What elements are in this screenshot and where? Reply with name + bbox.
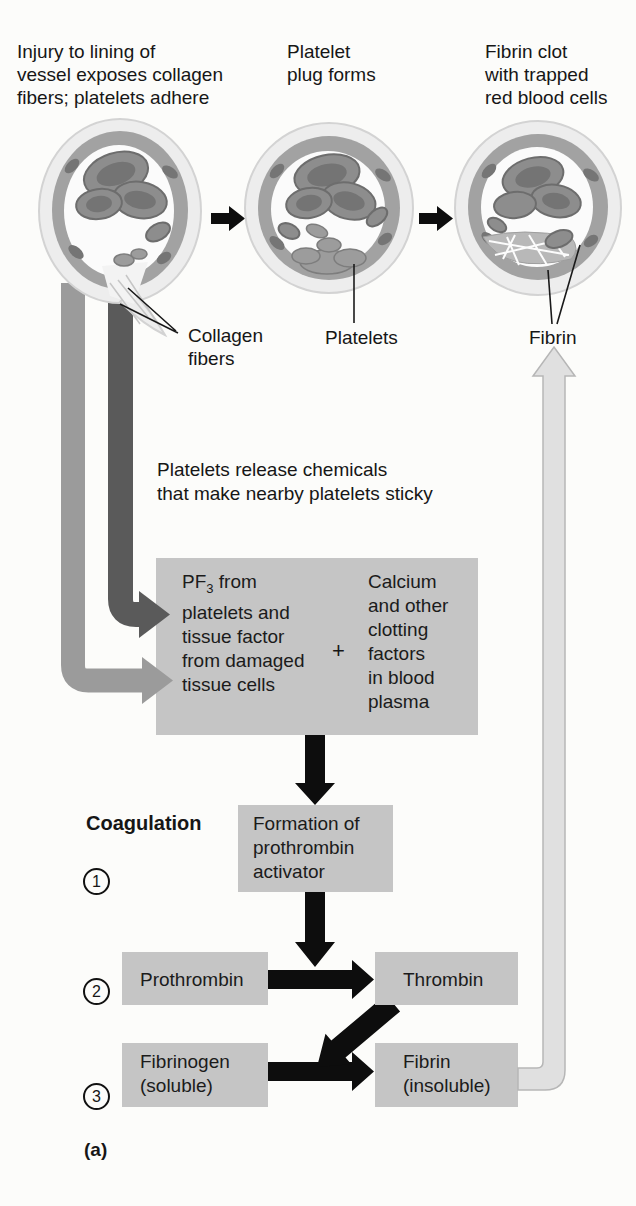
label-line: Injury to lining of bbox=[17, 40, 257, 63]
label-line: Platelet bbox=[287, 40, 417, 63]
label-line: plug forms bbox=[287, 63, 417, 86]
label-injury: Injury to lining of vessel exposes colla… bbox=[17, 40, 257, 109]
vessel-injury-illustration bbox=[36, 114, 206, 343]
box-line: Fibrin bbox=[403, 1050, 491, 1074]
callout-line: Collagen bbox=[188, 324, 263, 347]
pf3-line: PF3 from bbox=[182, 570, 317, 601]
mix-box-line: Calcium bbox=[368, 570, 473, 594]
mix-box-line: platelets and bbox=[182, 601, 317, 625]
label-line: red blood cells bbox=[485, 86, 625, 109]
hemostasis-diagram: Injury to lining of vessel exposes colla… bbox=[0, 0, 636, 1206]
mix-box-line: in blood bbox=[368, 666, 473, 690]
label-fibrin-clot: Fibrin clot with trapped red blood cells bbox=[485, 40, 625, 109]
down-arrow-mixbox-to-formation bbox=[295, 735, 335, 805]
mix-box-line: factors bbox=[368, 642, 473, 666]
formation-box-text: Formation of prothrombin activator bbox=[253, 812, 360, 884]
mix-box-left-text: PF3 from platelets and tissue factor fro… bbox=[182, 570, 317, 697]
mix-box-line: tissue factor bbox=[182, 625, 317, 649]
callout-platelets: Platelets bbox=[325, 326, 398, 349]
callout-line: fibers bbox=[188, 347, 263, 370]
mix-box-line: and other bbox=[368, 594, 473, 618]
figure-label: (a) bbox=[84, 1138, 107, 1161]
box-line: prothrombin bbox=[253, 836, 360, 860]
mix-box-line: clotting bbox=[368, 618, 473, 642]
thrombin-box-text: Thrombin bbox=[403, 968, 483, 992]
fibrin-box-text: Fibrin (insoluble) bbox=[403, 1050, 491, 1098]
mix-box-line: plasma bbox=[368, 690, 473, 714]
step-1-badge: 1 bbox=[83, 868, 110, 895]
vessel-platelet-plug-illustration bbox=[243, 121, 415, 301]
box-line: Formation of bbox=[253, 812, 360, 836]
label-line: with trapped bbox=[485, 63, 625, 86]
light-return-arrow-fibrin bbox=[518, 347, 575, 1090]
fibrinogen-box-text: Fibrinogen (soluble) bbox=[140, 1050, 230, 1098]
label-line: Fibrin clot bbox=[485, 40, 625, 63]
note-platelets-chemicals: Platelets release chemicals that make ne… bbox=[157, 458, 487, 506]
pf3-subscript: 3 bbox=[206, 581, 213, 596]
right-arrow-prothrombin-to-thrombin bbox=[268, 960, 374, 999]
step-2-badge: 2 bbox=[83, 978, 110, 1005]
box-line: Fibrinogen bbox=[140, 1050, 230, 1074]
prothrombin-box-text: Prothrombin bbox=[140, 968, 244, 992]
label-platelet-plug: Platelet plug forms bbox=[287, 40, 417, 86]
right-arrow-vessel1-to-vessel2 bbox=[211, 206, 245, 231]
callout-fibrin: Fibrin bbox=[529, 326, 577, 349]
box-line: (insoluble) bbox=[403, 1074, 491, 1098]
label-line: fibers; platelets adhere bbox=[17, 86, 257, 109]
right-arrow-vessel2-to-vessel3 bbox=[419, 206, 453, 231]
box-line: (soluble) bbox=[140, 1074, 230, 1098]
step-3-badge: 3 bbox=[83, 1083, 110, 1110]
mix-box-right-text: Calcium and other clotting factors in bl… bbox=[368, 570, 473, 714]
mix-box-line: tissue cells bbox=[182, 673, 317, 697]
callout-collagen-fibers: Collagen fibers bbox=[188, 324, 263, 370]
note-line: Platelets release chemicals bbox=[157, 458, 487, 482]
coagulation-heading: Coagulation bbox=[86, 812, 202, 835]
mix-box-line: from damaged bbox=[182, 649, 317, 673]
down-arrow-formation-to-step2 bbox=[295, 892, 335, 967]
note-line: that make nearby platelets sticky bbox=[157, 482, 487, 506]
label-line: vessel exposes collagen bbox=[17, 63, 257, 86]
right-arrow-fibrinogen-to-fibrin bbox=[268, 1052, 374, 1091]
box-line: activator bbox=[253, 860, 360, 884]
plus-sign: + bbox=[332, 638, 345, 664]
vessel-fibrin-clot-illustration bbox=[453, 119, 623, 303]
